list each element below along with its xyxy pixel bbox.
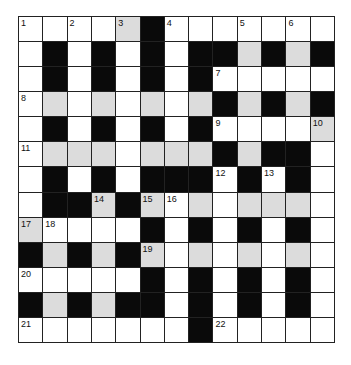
answer-cell[interactable] [43, 268, 66, 292]
answer-cell[interactable] [43, 318, 66, 342]
answer-cell[interactable]: 13 [262, 167, 285, 191]
answer-cell[interactable]: 2 [68, 17, 91, 41]
answer-cell[interactable] [19, 193, 42, 217]
answer-cell[interactable] [165, 142, 188, 166]
answer-cell[interactable] [286, 92, 309, 116]
answer-cell[interactable] [68, 142, 91, 166]
answer-cell[interactable] [165, 268, 188, 292]
answer-cell[interactable]: 12 [213, 167, 236, 191]
answer-cell[interactable] [68, 92, 91, 116]
answer-cell[interactable] [68, 167, 91, 191]
answer-cell[interactable] [213, 218, 236, 242]
answer-cell[interactable] [92, 218, 115, 242]
answer-cell[interactable]: 1 [19, 17, 42, 41]
answer-cell[interactable] [43, 92, 66, 116]
answer-cell[interactable] [238, 67, 261, 91]
answer-cell[interactable]: 22 [213, 318, 236, 342]
answer-cell[interactable] [286, 243, 309, 267]
answer-cell[interactable] [19, 42, 42, 66]
answer-cell[interactable] [262, 293, 285, 317]
answer-cell[interactable] [92, 268, 115, 292]
answer-cell[interactable] [116, 167, 139, 191]
answer-cell[interactable] [213, 293, 236, 317]
answer-cell[interactable]: 3 [116, 17, 139, 41]
answer-cell[interactable]: 5 [238, 17, 261, 41]
answer-cell[interactable] [286, 193, 309, 217]
answer-cell[interactable] [116, 268, 139, 292]
answer-cell[interactable] [262, 17, 285, 41]
answer-cell[interactable] [189, 142, 212, 166]
answer-cell[interactable] [311, 142, 334, 166]
answer-cell[interactable] [311, 243, 334, 267]
answer-cell[interactable] [165, 117, 188, 141]
answer-cell[interactable] [262, 268, 285, 292]
answer-cell[interactable] [189, 243, 212, 267]
answer-cell[interactable] [238, 42, 261, 66]
answer-cell[interactable] [92, 92, 115, 116]
answer-cell[interactable] [262, 193, 285, 217]
answer-cell[interactable]: 7 [213, 67, 236, 91]
answer-cell[interactable] [43, 293, 66, 317]
answer-cell[interactable] [43, 243, 66, 267]
answer-cell[interactable] [68, 268, 91, 292]
answer-cell[interactable] [165, 318, 188, 342]
answer-cell[interactable] [19, 117, 42, 141]
answer-cell[interactable] [92, 293, 115, 317]
answer-cell[interactable] [262, 243, 285, 267]
answer-cell[interactable] [311, 67, 334, 91]
answer-cell[interactable] [189, 92, 212, 116]
answer-cell[interactable] [238, 243, 261, 267]
answer-cell[interactable] [116, 318, 139, 342]
answer-cell[interactable] [262, 67, 285, 91]
answer-cell[interactable] [311, 193, 334, 217]
answer-cell[interactable] [165, 67, 188, 91]
answer-cell[interactable] [92, 142, 115, 166]
answer-cell[interactable]: 17 [19, 218, 42, 242]
answer-cell[interactable] [68, 67, 91, 91]
answer-cell[interactable] [165, 42, 188, 66]
answer-cell[interactable]: 15 [141, 193, 164, 217]
answer-cell[interactable] [141, 318, 164, 342]
answer-cell[interactable] [286, 117, 309, 141]
answer-cell[interactable] [68, 318, 91, 342]
answer-cell[interactable] [311, 293, 334, 317]
answer-cell[interactable]: 18 [43, 218, 66, 242]
answer-cell[interactable] [213, 243, 236, 267]
answer-cell[interactable]: 20 [19, 268, 42, 292]
answer-cell[interactable] [238, 117, 261, 141]
answer-cell[interactable] [238, 193, 261, 217]
answer-cell[interactable]: 10 [311, 117, 334, 141]
answer-cell[interactable] [43, 142, 66, 166]
answer-cell[interactable] [238, 142, 261, 166]
answer-cell[interactable] [238, 92, 261, 116]
answer-cell[interactable] [311, 318, 334, 342]
answer-cell[interactable] [238, 318, 261, 342]
answer-cell[interactable] [286, 318, 309, 342]
answer-cell[interactable] [286, 67, 309, 91]
answer-cell[interactable] [262, 117, 285, 141]
answer-cell[interactable] [141, 92, 164, 116]
answer-cell[interactable] [213, 268, 236, 292]
answer-cell[interactable] [43, 17, 66, 41]
answer-cell[interactable] [116, 42, 139, 66]
answer-cell[interactable] [92, 318, 115, 342]
answer-cell[interactable] [19, 167, 42, 191]
answer-cell[interactable] [311, 268, 334, 292]
answer-cell[interactable] [311, 167, 334, 191]
answer-cell[interactable] [116, 218, 139, 242]
answer-cell[interactable] [311, 17, 334, 41]
answer-cell[interactable]: 8 [19, 92, 42, 116]
answer-cell[interactable] [68, 117, 91, 141]
answer-cell[interactable] [213, 17, 236, 41]
answer-cell[interactable] [286, 42, 309, 66]
answer-cell[interactable] [165, 243, 188, 267]
answer-cell[interactable] [311, 218, 334, 242]
answer-cell[interactable] [165, 92, 188, 116]
answer-cell[interactable] [189, 17, 212, 41]
answer-cell[interactable] [116, 142, 139, 166]
answer-cell[interactable] [116, 92, 139, 116]
answer-cell[interactable] [189, 193, 212, 217]
answer-cell[interactable]: 21 [19, 318, 42, 342]
answer-cell[interactable]: 11 [19, 142, 42, 166]
answer-cell[interactable] [19, 67, 42, 91]
